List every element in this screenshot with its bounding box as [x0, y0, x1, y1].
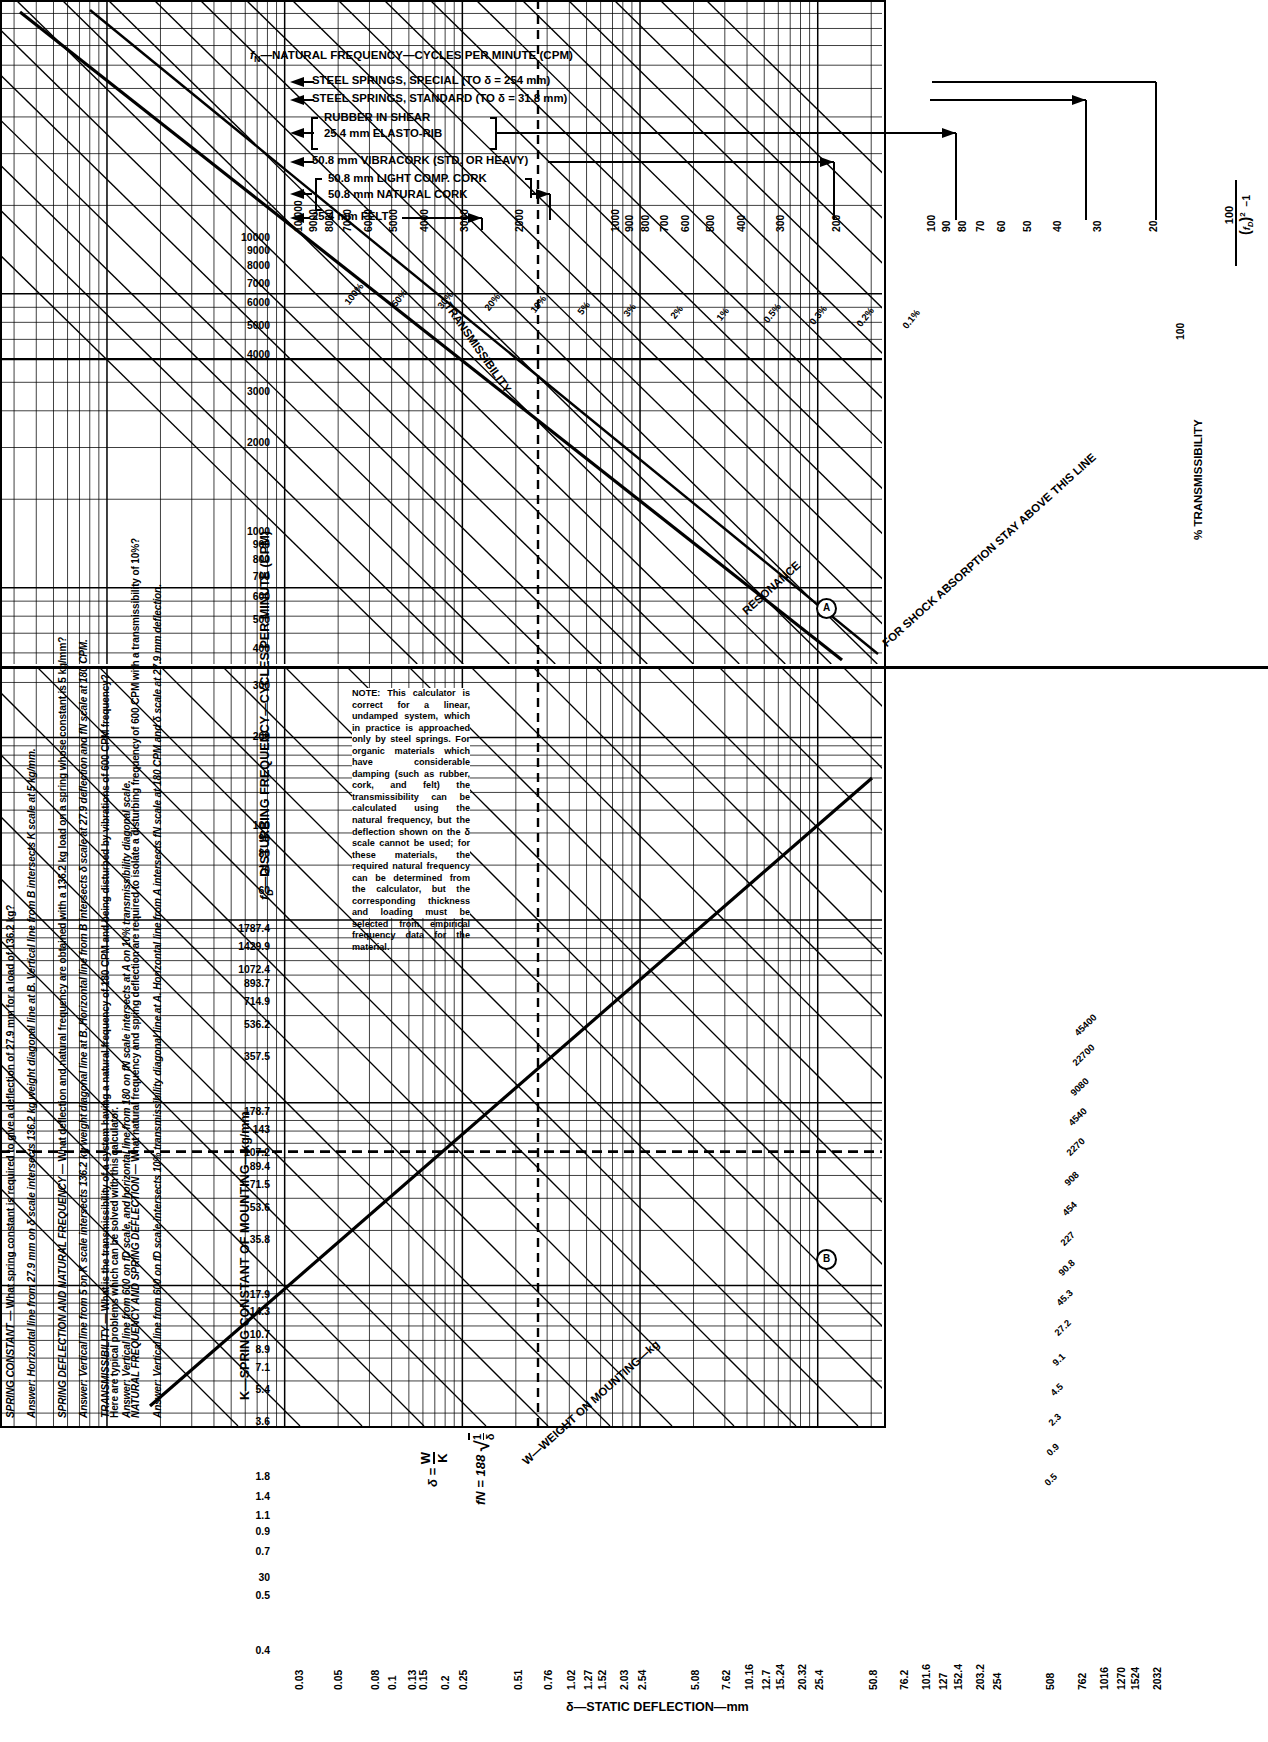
weight-diagonal-tick: 227 [1058, 1229, 1077, 1248]
delta-tick-label: 1270 [1116, 1667, 1127, 1690]
delta-formula-lhs: δ = [425, 1468, 440, 1487]
delta-tick-label: 203.2 [975, 1664, 986, 1690]
fn-formula: fN = 188 √ 1 δ [468, 1505, 540, 1533]
delta-formula-num: W [418, 1452, 433, 1464]
delta-tick-label: 50.8 [868, 1670, 879, 1690]
weight-diagonal-tick: 2270 [1064, 1135, 1087, 1158]
callout-a: A [816, 598, 837, 619]
weight-diagonal-tick: 9080 [1068, 1075, 1091, 1098]
weight-diagonal-tick: 4540 [1066, 1105, 1089, 1128]
delta-tick-label: 0.08 [370, 1670, 381, 1690]
delta-tick-label: 5.08 [690, 1670, 701, 1690]
fn-formula-num: 1 [471, 1433, 483, 1440]
delta-tick-label: 0.76 [543, 1670, 554, 1690]
delta-tick-label: 0.25 [458, 1670, 469, 1690]
delta-tick-label: 2032 [1152, 1667, 1163, 1690]
delta-tick-label: 127 [938, 1673, 949, 1690]
k-axis-title: K—SPRING CONSTANT OF MOUNTING—kg/mm [238, 1111, 252, 1400]
delta-tick-label: 76.2 [899, 1670, 910, 1690]
delta-tick-label: 101.6 [921, 1664, 932, 1690]
pct-transmissibility-label: % TRANSMISSIBILITY [1192, 419, 1204, 540]
delta-tick-label: 2.03 [619, 1670, 630, 1690]
delta-tick-label: 1.02 [566, 1670, 577, 1690]
delta-tick-label: 0.13 [407, 1670, 418, 1690]
weight-diagonal-tick: 908 [1062, 1169, 1081, 1188]
fn-formula-lhs: fN = 188 [473, 1455, 488, 1505]
weight-diagonal-tick: 45400 [1072, 1012, 1099, 1038]
delta-tick-label: 7.62 [721, 1670, 732, 1690]
delta-tick-label: 10.16 [744, 1664, 755, 1690]
delta-tick-label: 1016 [1099, 1667, 1110, 1690]
delta-tick-label: 0.2 [440, 1676, 451, 1690]
note-text: NOTE: This calculator is correct for a l… [352, 688, 470, 954]
weight-diagonal-tick: 0.5 [1042, 1471, 1059, 1488]
delta-axis-title: δ—STATIC DEFLECTION—mm [566, 1700, 749, 1714]
weight-diagonal-tick: 9.1 [1050, 1351, 1067, 1368]
delta-tick-label: 15.24 [775, 1664, 786, 1690]
delta-tick-label: 1524 [1130, 1667, 1141, 1690]
weight-diagonal-tick: 45.3 [1054, 1287, 1075, 1308]
note-prefix: NOTE: [352, 688, 380, 698]
weight-diagonal-tick: 90.8 [1056, 1257, 1077, 1278]
weight-diagonal-tick: 2.3 [1046, 1411, 1063, 1428]
weight-diagonal-tick: 454 [1060, 1199, 1079, 1218]
delta-tick-label: 0.15 [418, 1670, 429, 1690]
delta-tick-label: 254 [992, 1673, 1003, 1690]
delta-tick-label: 1.52 [597, 1670, 608, 1690]
delta-tick-label: 25.4 [814, 1670, 825, 1690]
delta-tick-label: 0.03 [294, 1670, 305, 1690]
delta-tick-label: 12.7 [761, 1670, 772, 1690]
weight-diagonal-tick: 0.9 [1044, 1441, 1061, 1458]
delta-tick-label: 508 [1045, 1673, 1056, 1690]
delta-tick-label: 152.4 [953, 1664, 964, 1690]
fd-axis-title: fD—DISTURBING FREQUENCY—CYCLES PER MINUT… [258, 531, 275, 900]
delta-tick-label: 20.32 [797, 1664, 808, 1690]
delta-formula-den: K [435, 1452, 450, 1464]
formula-numerator: 100 [1223, 206, 1235, 224]
delta-tick-label: 762 [1077, 1673, 1088, 1690]
delta-tick-label: 0.1 [387, 1676, 398, 1690]
callout-b: B [816, 1249, 837, 1270]
delta-tick-label: 2.54 [637, 1670, 648, 1690]
weight-diagonal-tick: 4.5 [1048, 1381, 1065, 1398]
note-box: NOTE: This calculator is correct for a l… [352, 688, 470, 918]
fn-formula-den: δ [484, 1433, 496, 1440]
delta-tick-label: 1.27 [583, 1670, 594, 1690]
delta-axis-ticks: 0.030.050.080.10.130.150.20.250.510.761.… [0, 0, 1268, 1742]
delta-formula: δ = W K [418, 1487, 453, 1519]
note-body: This calculator is correct for a linear,… [352, 688, 470, 952]
delta-tick-label: 0.05 [333, 1670, 344, 1690]
delta-tick-label: 0.51 [513, 1670, 524, 1690]
weight-diagonal-tick: 27.2 [1052, 1317, 1073, 1338]
weight-diagonal-tick: 22700 [1070, 1042, 1097, 1068]
